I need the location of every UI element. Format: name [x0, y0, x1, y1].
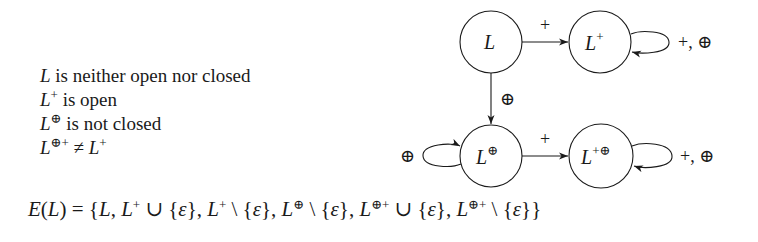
- edge-label-oplus-down: ⊕: [500, 89, 515, 109]
- loop-Lplusoplus: [632, 144, 672, 168]
- edge-label-plus-top: +: [540, 15, 550, 35]
- node-label-Loplus: L⊕: [475, 143, 498, 168]
- loop-label-Lplusoplus: +, ⊕: [680, 146, 714, 166]
- node-label-Lplusoplus: L+⊕: [580, 143, 610, 168]
- loop-label-Lplus: +, ⊕: [678, 32, 712, 52]
- loop-Lplus: [631, 32, 669, 53]
- edge-label-plus-bottom: +: [540, 129, 550, 149]
- equation-E-of-L: E(L) = {L, L+ ∪ {ε}, L+ \ {ε}, L⊕ \ {ε},…: [28, 197, 541, 222]
- node-label-L: L: [483, 31, 495, 53]
- loop-Loplus: [423, 144, 461, 166]
- node-label-Lplus: L+: [584, 29, 603, 54]
- loop-label-Loplus: ⊕: [400, 146, 415, 166]
